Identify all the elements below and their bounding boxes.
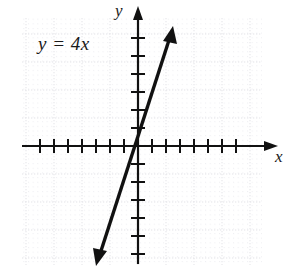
equation-label: y = 4x (38, 34, 90, 53)
y-axis-label: y (115, 2, 123, 19)
x-axis-label: x (275, 148, 283, 165)
graph-figure: y = 4x y x (0, 0, 294, 274)
